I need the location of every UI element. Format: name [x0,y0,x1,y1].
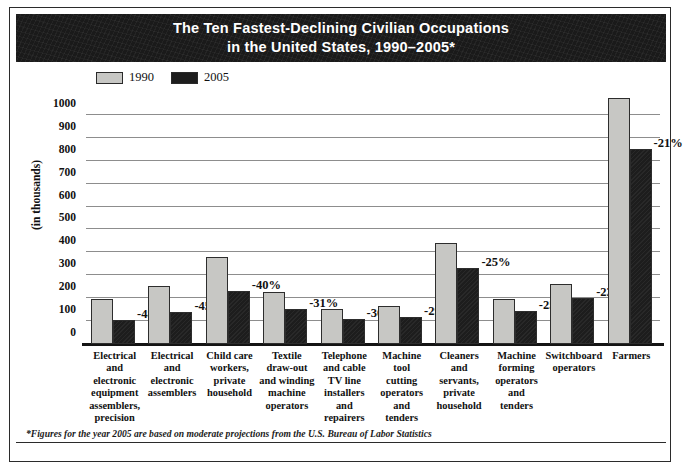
y-tick-label-900: 900 [59,120,76,132]
page-title-line1: The Ten Fastest-Declining Civilian Occup… [173,19,509,38]
bar-1990[interactable] [608,98,630,344]
bar-group: -30% [316,92,373,344]
y-tick-label-300: 300 [59,257,76,269]
category-label-line: assemblers, [80,400,149,412]
y-tick-label-100: 100 [59,303,76,315]
bar-group: -23% [545,92,602,344]
y-tick-label-0: 0 [70,326,76,338]
bar-group: -25% [488,92,545,344]
legend-item-1990: 1990 [96,70,154,85]
y-tick-label-500: 500 [59,211,76,223]
bar-2005[interactable] [572,298,594,344]
bar-2005[interactable] [457,268,479,344]
bar-2005[interactable] [113,320,135,344]
legend-swatch-1990 [96,72,123,84]
legend-swatch-2005 [171,72,198,84]
footnote-divider [16,442,666,443]
page-title-line2: in the United States, 1990–2005* [227,38,455,57]
category-label-line: tenders [482,400,551,412]
legend-label-2005: 2005 [204,70,229,85]
category-label: Farmers [597,350,666,362]
legend-label-1990: 1990 [129,70,154,85]
chart-legend: 1990 2005 [96,70,229,85]
bar-1990[interactable] [378,306,400,344]
x-axis-category-labels: Electricalandelectronicequipmentassemble… [86,350,660,436]
plot-area: 01002003004005006007008009001000-48%-45%… [86,92,660,344]
bar-2005[interactable] [228,291,250,344]
bar-1990[interactable] [550,284,572,344]
bar-2005[interactable] [400,317,422,344]
bar-1990[interactable] [263,292,285,344]
bar-1990[interactable] [91,299,113,344]
category-label-line: operators [482,375,551,387]
bar-group: -45% [143,92,200,344]
y-tick-label-400: 400 [59,234,76,246]
bar-group: -21% [603,92,660,344]
y-axis-label: (in thousands) [30,160,42,230]
y-tick-label-600: 600 [59,189,76,201]
bar-2005[interactable] [285,309,307,345]
bar-1990[interactable] [148,286,170,344]
bar-2005[interactable] [343,319,365,344]
y-tick-label-800: 800 [59,143,76,155]
bar-group: -40% [201,92,258,344]
bar-2005[interactable] [170,312,192,344]
bar-group: -25% [430,92,487,344]
y-tick-label-200: 200 [59,280,76,292]
category-label-line: and [482,387,551,399]
bar-1990[interactable] [493,299,515,344]
footnote-text: *Figures for the year 2005 are based on … [26,428,432,439]
bar-group: -48% [86,92,143,344]
bar-1990[interactable] [435,243,457,344]
y-tick-label-1000: 1000 [53,97,76,109]
chart-title-banner: The Ten Fastest-Declining Civilian Occup… [16,14,666,62]
chart-poster: The Ten Fastest-Declining Civilian Occup… [9,7,671,462]
category-label-line: precision [80,412,149,424]
y-tick-label-700: 700 [59,166,76,178]
percent-change-label: -21% [654,136,683,151]
bar-2005[interactable] [515,311,537,344]
bar-1990[interactable] [206,257,228,344]
bar-group: -29% [373,92,430,344]
bar-2005[interactable] [630,149,652,344]
bar-group: -31% [258,92,315,344]
category-label-line: operators [539,362,608,374]
bar-1990[interactable] [321,309,343,345]
category-label-line: tenders [367,412,436,424]
category-label-line: Farmers [597,350,666,362]
legend-item-2005: 2005 [171,70,229,85]
